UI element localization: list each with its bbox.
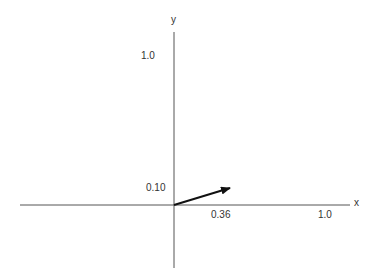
y-tick-label: 1.0: [141, 51, 155, 61]
vector-x-component-label: 0.36: [211, 210, 230, 220]
vector-arrow: [174, 188, 230, 205]
vector-diagram: [0, 0, 388, 275]
vector-y-component-label: 0.10: [146, 183, 165, 193]
y-axis-label: y: [171, 15, 176, 25]
x-axis-label: x: [354, 198, 359, 208]
x-tick-label: 1.0: [318, 210, 332, 220]
